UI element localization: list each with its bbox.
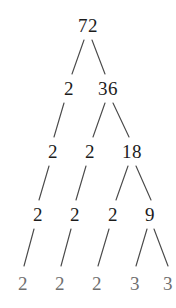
tree-edge-n2c-to-n2e (76, 166, 86, 200)
tree-edge-n72-to-n2a (72, 40, 84, 74)
tree-edge-n2a-to-n2b (54, 103, 64, 137)
tree-node-n2b: 2 (48, 142, 58, 161)
tree-edge-n18-to-n2f (116, 166, 128, 200)
tree-node-n2f: 2 (108, 205, 118, 224)
tree-node-n2c: 2 (85, 142, 95, 161)
tree-leaf-node-n3a: 3 (130, 274, 140, 293)
tree-edge-n2b-to-n2d (39, 166, 49, 200)
tree-edge-n2d-to-n2g (24, 229, 34, 266)
tree-node-n72: 72 (78, 16, 98, 35)
tree-leaf-node-n2h: 2 (55, 274, 65, 293)
factor-tree-diagram: 722362218222922233 (0, 0, 176, 308)
tree-node-n18: 18 (122, 142, 142, 161)
tree-node-n9: 9 (145, 205, 155, 224)
tree-edge-n36-to-n18 (113, 103, 129, 137)
tree-edge-n18-to-n9 (136, 166, 151, 200)
tree-node-n2a: 2 (64, 79, 74, 98)
tree-edge-n9-to-n3b (154, 229, 168, 266)
tree-edge-n72-to-n36 (92, 40, 105, 74)
tree-leaf-node-n2g: 2 (18, 274, 28, 293)
tree-edge-n2f-to-n2i (98, 229, 109, 266)
tree-edge-n9-to-n3a (136, 229, 147, 266)
tree-edge-n2e-to-n2h (61, 229, 71, 266)
tree-node-n2e: 2 (70, 205, 80, 224)
tree-edge-n36-to-n2c (93, 103, 105, 137)
tree-leaf-node-n2i: 2 (92, 274, 102, 293)
tree-leaf-node-n3b: 3 (163, 274, 173, 293)
tree-node-n36: 36 (98, 79, 118, 98)
tree-node-n2d: 2 (33, 205, 43, 224)
